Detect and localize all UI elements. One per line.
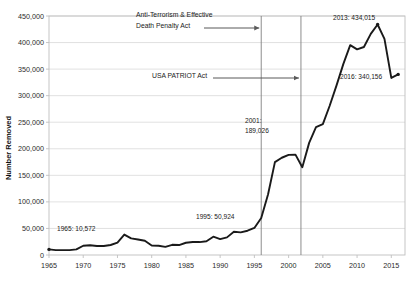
y-tick-label: 350,000	[18, 65, 44, 74]
x-tick-label: 1980	[144, 261, 160, 270]
x-tick-label: 1965	[41, 261, 57, 270]
x-tick-label: 1970	[75, 261, 91, 270]
annotation-law-1996-line2: Death Penalty Act	[136, 22, 190, 30]
y-tick-label: 50,000	[22, 224, 44, 233]
data-point-marker	[396, 73, 399, 76]
chart-background	[0, 0, 420, 292]
line-chart: 050,000100,000150,000200,000250,000300,0…	[0, 0, 420, 292]
x-tick-label: 1975	[109, 261, 125, 270]
x-tick-label: 2000	[281, 261, 297, 270]
data-point-marker	[47, 248, 50, 251]
y-tick-label: 0	[40, 251, 44, 260]
y-axis-label: Number Removed	[4, 115, 13, 180]
x-tick-label: 1985	[178, 261, 194, 270]
annotation-law-2001-line1: USA PATRIOT Act	[152, 72, 207, 79]
label-2001-line2: 189,026	[245, 127, 269, 134]
label-1965-line1: 1965: 10,572	[57, 225, 96, 232]
x-tick-label: 2015	[383, 261, 399, 270]
y-tick-label: 250,000	[18, 118, 44, 127]
y-tick-label: 200,000	[18, 144, 44, 153]
label-2016-line1: 2016: 340,156	[340, 73, 383, 80]
data-point-marker	[376, 23, 379, 26]
chart-container: 050,000100,000150,000200,000250,000300,0…	[0, 0, 420, 292]
x-tick-label: 1990	[212, 261, 228, 270]
label-1995-line1: 1995: 50,924	[196, 213, 235, 220]
y-tick-label: 450,000	[18, 12, 44, 21]
y-tick-label: 300,000	[18, 91, 44, 100]
x-tick-label: 1995	[246, 261, 262, 270]
x-tick-label: 2010	[349, 261, 365, 270]
y-tick-label: 150,000	[18, 171, 44, 180]
y-tick-label: 100,000	[18, 197, 44, 206]
annotation-law-1996-line1: Anti-Terrorism & Effective	[136, 11, 213, 18]
label-2013-line1: 2013: 434,015	[333, 14, 376, 21]
x-tick-label: 2005	[315, 261, 331, 270]
y-tick-label: 400,000	[18, 38, 44, 47]
label-2001-line1: 2001:	[245, 117, 262, 124]
